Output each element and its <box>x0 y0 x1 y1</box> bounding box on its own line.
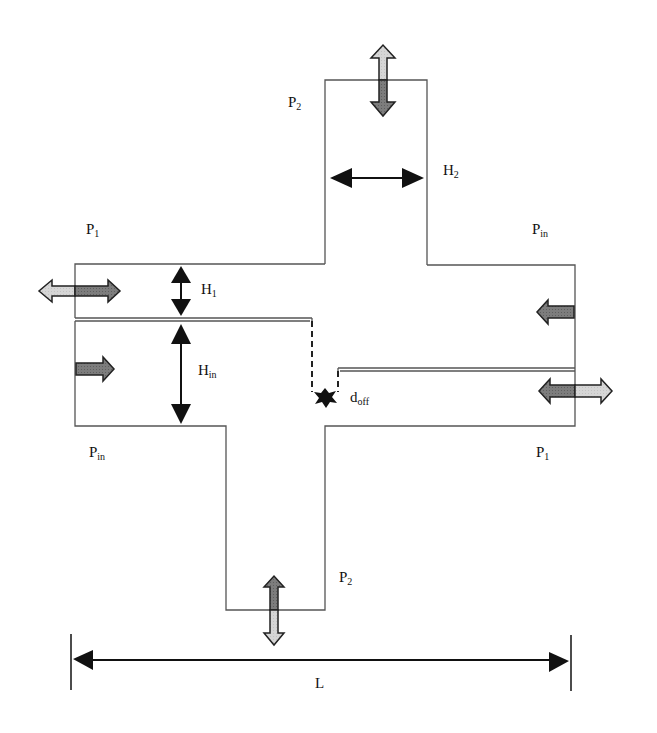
lower-left-channel-outline <box>75 321 575 610</box>
label-h2: H2 <box>443 163 459 180</box>
label-length: L <box>315 676 324 691</box>
offset-dashed-lines <box>312 321 338 392</box>
label-p1-left: P1 <box>86 222 99 239</box>
label-pin-right: Pin <box>532 222 548 239</box>
label-hin: Hin <box>198 363 217 380</box>
left-inlet-flow-arrow-icon <box>76 357 114 381</box>
right-channel-outline <box>338 265 575 373</box>
hin-dimension-arrow-icon <box>171 324 191 424</box>
star-marker-icon <box>314 388 337 408</box>
cross-channel-diagram <box>0 0 657 733</box>
label-p1-right: P1 <box>536 445 549 462</box>
label-pin-left: Pin <box>89 445 105 462</box>
label-p2-top: P2 <box>288 95 301 112</box>
right-inlet-flow-arrow-icon <box>537 300 574 324</box>
h2-dimension-arrow-icon <box>330 168 424 188</box>
left-p1-flow-arrow-icon <box>39 280 120 302</box>
label-h1: H1 <box>201 282 217 299</box>
h1-dimension-arrow-icon <box>171 266 191 316</box>
label-p2-bottom: P2 <box>339 570 352 587</box>
label-doff: doff <box>350 390 369 407</box>
